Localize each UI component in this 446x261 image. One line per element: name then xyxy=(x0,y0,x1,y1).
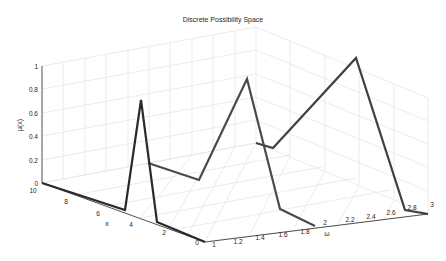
z-axis-label: μ(x) xyxy=(16,119,24,131)
grid xyxy=(42,27,428,242)
plot-3d: Discrete Possibility Space 0 0.2 0.4 0.6… xyxy=(0,0,446,261)
chart-title: Discrete Possibility Space xyxy=(183,16,264,24)
svg-text:1.8: 1.8 xyxy=(300,228,309,235)
svg-text:2: 2 xyxy=(323,219,327,226)
svg-text:2.4: 2.4 xyxy=(366,213,375,220)
omega-axis-label: ω xyxy=(324,230,330,237)
omega-tick-labels: 1 1.2 1.4 1.6 1.8 2 2.2 2.4 2.6 2.8 3 xyxy=(212,201,434,248)
svg-text:1: 1 xyxy=(212,241,216,248)
z-tick-labels: 0 0.2 0.4 0.6 0.8 1 xyxy=(29,63,38,187)
svg-text:0.4: 0.4 xyxy=(29,133,38,140)
svg-text:2.2: 2.2 xyxy=(345,216,354,223)
svg-text:1.4: 1.4 xyxy=(255,234,264,241)
x-axis-label: x xyxy=(105,220,109,227)
svg-text:0.8: 0.8 xyxy=(29,86,38,93)
svg-text:2: 2 xyxy=(162,229,166,236)
svg-text:6: 6 xyxy=(96,210,100,217)
svg-text:2.6: 2.6 xyxy=(386,209,395,216)
figure: Discrete Possibility Space 0 0.2 0.4 0.6… xyxy=(0,0,446,261)
series-omega-3 xyxy=(256,58,428,214)
svg-text:0.2: 0.2 xyxy=(29,157,38,164)
svg-text:0: 0 xyxy=(34,180,38,187)
x-tick-labels: 10 8 6 4 2 0 xyxy=(29,187,199,246)
svg-text:3: 3 xyxy=(430,201,434,208)
svg-text:4: 4 xyxy=(129,221,133,228)
svg-text:0: 0 xyxy=(195,239,199,246)
svg-text:1.6: 1.6 xyxy=(278,231,287,238)
svg-text:10: 10 xyxy=(29,187,37,194)
svg-text:8: 8 xyxy=(64,198,68,205)
svg-text:1: 1 xyxy=(34,63,38,70)
svg-text:0.6: 0.6 xyxy=(29,110,38,117)
svg-text:1.2: 1.2 xyxy=(233,238,242,245)
svg-text:2.8: 2.8 xyxy=(407,204,416,211)
